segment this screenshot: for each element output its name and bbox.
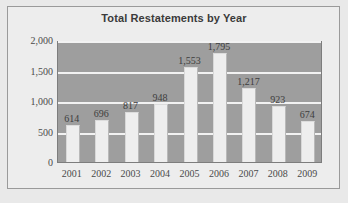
x-axis-tick-label: 2002	[87, 168, 116, 179]
x-axis: 200120022003200420052006200720082009	[57, 168, 322, 182]
chart-figure: Total Restatements by Year 05001,0001,50…	[0, 0, 348, 203]
bar-value-label: 923	[261, 94, 295, 105]
y-axis-tick-label: 1,500	[5, 66, 53, 77]
y-axis-tick-label: 500	[5, 127, 53, 138]
x-axis-tick-label: 2009	[293, 168, 322, 179]
bar-value-labels: 6146968179481,5531,7951,217923674	[57, 41, 322, 163]
x-axis-tick-label: 2006	[204, 168, 233, 179]
x-axis-tick-label: 2008	[263, 168, 292, 179]
y-axis-tick-label: 0	[5, 157, 53, 168]
x-axis-tick-label: 2005	[175, 168, 204, 179]
bar-value-label: 1,553	[173, 55, 207, 66]
bar-value-label: 674	[290, 109, 324, 120]
x-axis-tick-label: 2001	[57, 168, 86, 179]
y-axis-tick-label: 2,000	[5, 35, 53, 46]
bar-value-label: 1,217	[231, 76, 265, 87]
bar-value-label: 948	[143, 92, 177, 103]
y-axis-tick-label: 1,000	[5, 96, 53, 107]
y-axis: 05001,0001,5002,000	[3, 41, 53, 163]
x-axis-tick-label: 2007	[234, 168, 263, 179]
x-axis-tick-label: 2004	[146, 168, 175, 179]
bar-value-label: 1,795	[202, 41, 236, 52]
x-axis-tick-label: 2003	[116, 168, 145, 179]
chart-title: Total Restatements by Year	[0, 12, 348, 24]
